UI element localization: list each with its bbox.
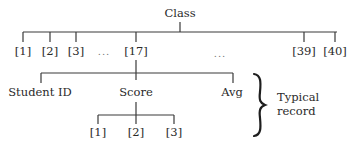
array-element-2: [2] — [42, 46, 58, 58]
score-element-2: [2] — [128, 127, 144, 139]
field-student-id: Student ID — [8, 87, 72, 99]
root-node-class: Class — [164, 8, 195, 20]
array-element-1: [1] — [15, 46, 31, 58]
score-element-3: [3] — [166, 127, 182, 139]
field-score: Score — [119, 87, 153, 99]
annotation-record: record — [277, 106, 316, 118]
array-element-17: [17] — [124, 46, 148, 58]
ellipsis-left: ... — [98, 47, 111, 57]
array-element-40: [40] — [323, 46, 347, 58]
array-element-3: [3] — [68, 46, 84, 58]
field-avg: Avg — [221, 87, 243, 99]
ellipsis-right: ... — [214, 49, 227, 59]
annotation-typical: Typical — [277, 92, 319, 104]
score-element-1: [1] — [90, 127, 106, 139]
curly-brace-icon — [250, 72, 270, 138]
array-element-39: [39] — [292, 46, 316, 58]
